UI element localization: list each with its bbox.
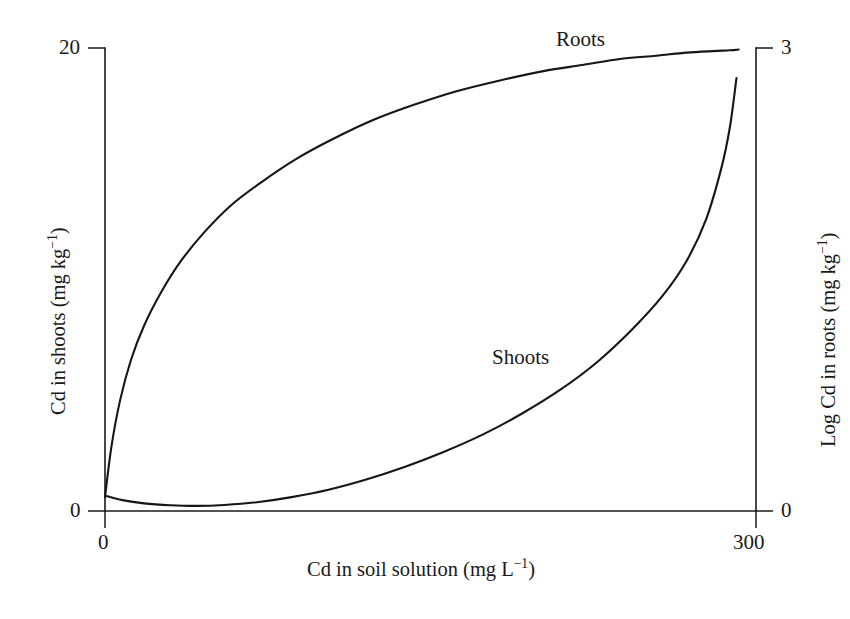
x-axis-title: Cd in soil solution (mg L−1) xyxy=(307,559,535,580)
x-axis-title-exponent: −1 xyxy=(514,556,528,571)
right-y-axis-tick-label-min: 0 xyxy=(781,500,792,521)
left-y-axis-tick-label-min: 0 xyxy=(70,500,81,521)
left-y-axis-title-tail: ) xyxy=(47,227,69,234)
right-y-axis-tick-label-max: 3 xyxy=(781,37,792,58)
x-axis-title-main: Cd in soil solution (mg L xyxy=(307,558,514,580)
chart-figure: 20 0 3 0 0 300 Cd in shoots (mg kg−1) Lo… xyxy=(0,0,850,619)
left-y-axis-title-main: Cd in shoots (mg kg xyxy=(47,249,69,415)
roots-curve-label: Roots xyxy=(556,29,605,50)
shoots-curve-label: Shoots xyxy=(492,347,549,368)
chart-canvas xyxy=(0,0,850,619)
right-y-axis-title: Log Cd in roots (mg kg−1) xyxy=(818,233,839,447)
right-y-axis-title-exponent: −1 xyxy=(815,240,830,254)
right-y-axis-title-main: Log Cd in roots (mg kg xyxy=(817,254,839,447)
left-y-axis-tick-label-max: 20 xyxy=(59,37,80,58)
right-y-axis-title-tail: ) xyxy=(817,233,839,240)
x-axis-tick-label-max: 300 xyxy=(733,532,765,553)
roots-curve xyxy=(105,50,739,498)
x-axis-title-tail: ) xyxy=(528,558,535,580)
left-y-axis-title: Cd in shoots (mg kg−1) xyxy=(48,227,69,415)
x-axis-tick-label-min: 0 xyxy=(98,532,109,553)
left-y-axis-title-exponent: −1 xyxy=(45,234,60,248)
shoots-curve xyxy=(105,78,736,506)
